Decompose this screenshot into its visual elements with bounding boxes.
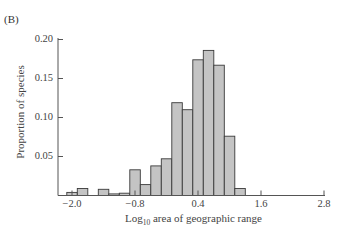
x-tick-label: 0.4: [178, 198, 218, 209]
histogram-bar: [172, 103, 183, 196]
x-axis-label-rest: area of geographic range: [150, 212, 262, 224]
x-axis-label: Log10 area of geographic range: [125, 212, 262, 227]
x-tick-label: −0.8: [115, 198, 155, 209]
y-tick-label: 0.20: [13, 33, 53, 44]
histogram-bar: [193, 60, 204, 196]
histogram-bars: [67, 50, 246, 195]
histogram-bar: [98, 189, 109, 195]
histogram-bar: [182, 110, 193, 196]
histogram-bar: [214, 65, 225, 195]
histogram-bar: [203, 50, 214, 195]
x-tick-label: 2.8: [304, 198, 344, 209]
x-tick-label: 1.6: [241, 198, 281, 209]
histogram-bar: [235, 189, 246, 196]
y-axis-label: Proportion of species: [14, 65, 26, 158]
histogram-bar: [151, 166, 162, 196]
histogram-bar: [140, 185, 151, 196]
histogram-bar: [77, 189, 88, 196]
histogram-bar: [161, 159, 172, 196]
x-axis-label-base: Log: [125, 212, 143, 224]
x-tick-label: −2.0: [52, 198, 92, 209]
histogram-bar: [224, 136, 235, 195]
y-ticks: [58, 40, 63, 157]
